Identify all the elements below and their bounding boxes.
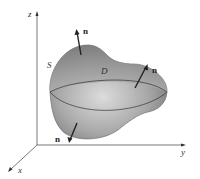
surface-s [50, 45, 167, 139]
normal-label-bottom: n [55, 134, 60, 144]
region-label: D [100, 66, 108, 76]
normal-arrow-top-head-icon [75, 29, 80, 35]
normal-label-top: n [83, 26, 88, 36]
x-axis [9, 145, 37, 171]
normal-label-right: n [152, 65, 157, 75]
z-axis-label: z [27, 9, 32, 19]
y-axis-label: y [180, 147, 185, 157]
surface-label: S [47, 60, 52, 70]
x-axis-arrow-icon [8, 167, 13, 172]
diagram-canvas: n n n z y x S D [0, 0, 200, 179]
x-axis-label: x [17, 165, 22, 175]
normal-arrow-bottom-head-icon [68, 137, 73, 143]
z-axis-arrow-icon [36, 11, 39, 16]
